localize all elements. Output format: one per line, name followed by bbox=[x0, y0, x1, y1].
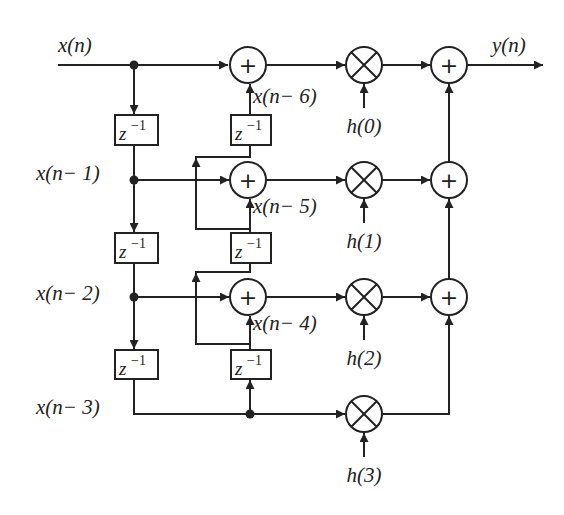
delay-box-label: z bbox=[234, 123, 243, 144]
multiplier-node-0 bbox=[346, 47, 382, 83]
delay-box-label: z bbox=[234, 241, 243, 262]
plus-icon: + bbox=[440, 53, 458, 78]
delay-box-label: z bbox=[118, 123, 127, 144]
tap-label-left-2: x(n− 2) bbox=[35, 281, 100, 305]
tap-label-right-1: x(n− 6) bbox=[252, 84, 317, 108]
delay-box-label: z bbox=[234, 358, 243, 379]
coefficient-label-1: h(1) bbox=[347, 229, 382, 253]
delay-box-exponent: −1 bbox=[247, 353, 262, 368]
multipliers: h(0) h(1) h(2) h(3) bbox=[346, 47, 382, 487]
delay-box-exponent: −1 bbox=[247, 118, 262, 133]
right-delay-chain: z −1 x(n− 4) z −1 x(n− 5) z −1 x(n− 6) bbox=[196, 84, 317, 419]
output-signal: y(n) bbox=[467, 33, 543, 65]
coefficient-label-2: h(2) bbox=[347, 346, 382, 370]
output-label: y(n) bbox=[490, 33, 526, 57]
feedback-wire bbox=[196, 263, 250, 273]
delay-box-label: z bbox=[118, 358, 127, 379]
fir-filter-diagram: x(n) z −1 x(n− 1) z −1 x(n− 2) z −1 x(n−… bbox=[0, 0, 564, 515]
delay-box-label: z bbox=[118, 241, 127, 262]
multiplier-node-1 bbox=[346, 162, 382, 198]
coefficient-label-0: h(0) bbox=[347, 114, 382, 138]
multiplier-node-3 bbox=[346, 396, 382, 432]
multiplier-node-2 bbox=[346, 279, 382, 315]
plus-icon: + bbox=[440, 168, 458, 193]
feedback-wire bbox=[196, 145, 250, 158]
input-signal: x(n) bbox=[57, 33, 228, 70]
tap-label-right-2: x(n− 5) bbox=[252, 194, 317, 218]
plus-icon: + bbox=[239, 53, 257, 78]
plus-icon: + bbox=[239, 285, 257, 310]
wire bbox=[382, 316, 449, 414]
delay-box-exponent: −1 bbox=[131, 236, 146, 251]
plus-icon: + bbox=[440, 285, 458, 310]
tap-label-left-3: x(n− 3) bbox=[35, 395, 100, 419]
tap-label-left-1: x(n− 1) bbox=[35, 161, 100, 185]
coefficient-label-3: h(3) bbox=[347, 463, 382, 487]
delay-box-exponent: −1 bbox=[131, 118, 146, 133]
left-delay-chain: z −1 x(n− 1) z −1 x(n− 2) z −1 x(n− 3) bbox=[35, 65, 345, 419]
tap-label-right-3: x(n− 4) bbox=[252, 311, 317, 335]
wire bbox=[134, 379, 345, 414]
delay-box-exponent: −1 bbox=[131, 353, 146, 368]
input-label: x(n) bbox=[57, 33, 92, 57]
plus-icon: + bbox=[239, 168, 257, 193]
delay-box-exponent: −1 bbox=[247, 236, 262, 251]
